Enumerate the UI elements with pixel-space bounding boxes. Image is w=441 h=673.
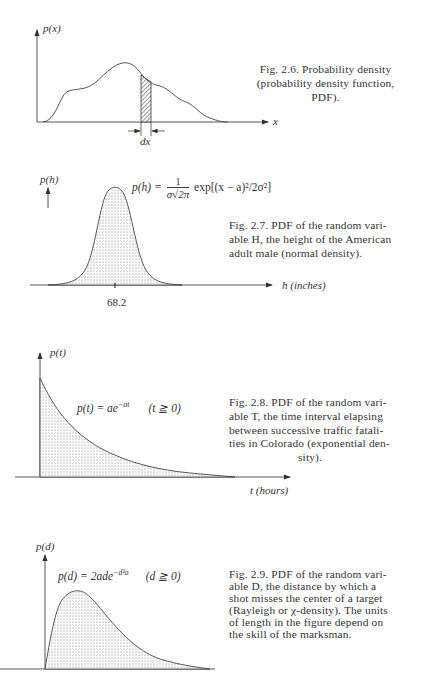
- y-axis-label: p(h): [40, 173, 58, 185]
- figure-2-9-caption: Fig. 2.9. PDF of the random vari- able D…: [229, 569, 388, 640]
- interval-label: dx: [140, 135, 150, 147]
- figure-2-8-caption: Fig. 2.8. PDF of the random vari- able T…: [229, 396, 390, 465]
- density-curve: [43, 63, 228, 122]
- x-axis-label: x: [273, 115, 278, 127]
- x-axis-label: h (inches): [282, 279, 326, 291]
- gaussian-curve: [48, 187, 182, 285]
- figure-2-6-plot: [37, 30, 268, 136]
- mean-tick-label: 68.2: [107, 296, 126, 308]
- exponential-density-formula: p(t) = ae−at (t ≧ 0): [77, 400, 181, 415]
- x-axis-label: t (hours): [250, 484, 288, 496]
- figure-2-7-caption: Fig. 2.7. PDF of the random vari- able H…: [229, 219, 391, 260]
- y-axis-label: p(d): [36, 540, 54, 552]
- y-axis-label: p(t): [50, 346, 66, 358]
- rayleigh-density-formula: p(d) = 2ade−d²a (d ≧ 0): [58, 568, 181, 583]
- rayleigh-curve: [45, 591, 210, 669]
- normal-density-formula: p(h) = 1 σ√2π exp[(x − a)²/2σ²]: [132, 176, 271, 201]
- exponential-curve: [40, 378, 235, 477]
- y-axis-label: p(x): [43, 22, 61, 34]
- figure-2-6-caption: Fig. 2.6. Probability density (probabili…: [238, 63, 413, 104]
